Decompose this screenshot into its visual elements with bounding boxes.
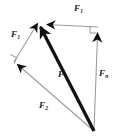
label-fn-vertical-subscript: n (105, 73, 108, 79)
right-angle-mark-left-vertex (10, 55, 16, 64)
label-f2-lower-diagonal: F2 (39, 101, 48, 110)
label-f2-lower-diagonal-subscript: 2 (45, 105, 48, 111)
label-f1-upper-diagonal: F1 (11, 30, 20, 39)
label-resultant-f-base: F (58, 69, 64, 79)
right-angle-mark-top-right (90, 27, 97, 33)
vector-line-fn-vertical (94, 33, 98, 131)
vector-line-f2-lower-diagonal (18, 65, 95, 132)
label-f1-horizontal: F1 (74, 4, 83, 13)
label-fn-vertical: Fn (99, 69, 108, 78)
force-vector-diagram: F1 F1 Fn F2 F (0, 0, 116, 140)
label-f1-upper-diagonal-subscript: 1 (17, 34, 20, 40)
label-f1-horizontal-subscript: 1 (80, 8, 83, 14)
label-resultant-f: F (58, 70, 64, 79)
vector-line-resultant-f (41, 27, 95, 131)
